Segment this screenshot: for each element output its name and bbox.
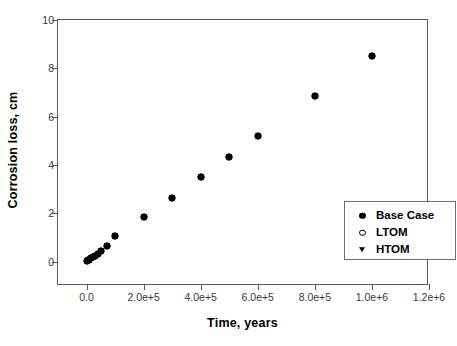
x-tick-mark (372, 284, 373, 290)
legend-item: LTOM (345, 224, 455, 241)
filled-triangle-down-marker-icon (104, 244, 110, 250)
y-tick-label: 8 (48, 63, 54, 74)
open-circle-icon (354, 226, 376, 240)
legend-item: HTOM (345, 241, 455, 258)
x-tick-mark (315, 284, 316, 290)
x-tick-label: 4.0e+5 (184, 292, 216, 303)
x-tick-label: 1.2e+6 (413, 292, 445, 303)
y-tick-label: 6 (48, 111, 54, 122)
filled-triangle-down-marker-icon (369, 54, 375, 60)
filled-triangle-down-marker-icon (226, 154, 232, 160)
filled-triangle-down-marker-icon (312, 93, 318, 99)
legend: Base CaseLTOMHTOM (344, 201, 456, 260)
y-tick-label: 0 (48, 257, 54, 268)
legend-item-label: Base Case (376, 210, 434, 222)
y-tick-label: 10 (42, 15, 54, 26)
x-tick-mark (201, 284, 202, 290)
filled-triangle-down-marker-icon (255, 133, 261, 139)
x-tick-mark (258, 284, 259, 290)
filled-triangle-down-marker-icon (169, 195, 175, 201)
x-axis-title: Time, years (57, 316, 428, 330)
x-tick-mark (144, 284, 145, 290)
filled-circle-icon (354, 209, 376, 223)
filled-triangle-down-marker-icon (112, 234, 118, 240)
x-tick-label: 8.0e+5 (299, 292, 331, 303)
plot-area: 0246810 0.02.0e+54.0e+56.0e+58.0e+51.0e+… (57, 19, 428, 285)
x-tick-label: 1.0e+6 (356, 292, 388, 303)
y-tick-label: 4 (48, 160, 54, 171)
legend-item-label: LTOM (376, 227, 408, 239)
y-tick-label: 2 (48, 208, 54, 219)
x-tick-label: 6.0e+5 (242, 292, 274, 303)
filled-triangle-down-icon (354, 243, 376, 257)
filled-triangle-down-marker-icon (198, 174, 204, 180)
legend-item: Base Case (345, 207, 455, 224)
filled-triangle-down-marker-icon (141, 214, 147, 220)
legend-item-label: HTOM (376, 244, 410, 256)
corrosion-loss-scatter-chart: Corrosion loss, cm 0246810 0.02.0e+54.0e… (0, 0, 457, 346)
x-tick-label: 0.0 (79, 292, 94, 303)
x-tick-mark (429, 284, 430, 290)
x-tick-mark (87, 284, 88, 290)
x-tick-label: 2.0e+5 (127, 292, 159, 303)
y-axis-title: Corrosion loss, cm (2, 0, 24, 300)
